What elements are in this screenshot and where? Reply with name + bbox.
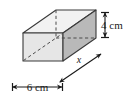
label-height: 4 cm xyxy=(101,19,123,31)
label-width: 6 cm xyxy=(27,81,49,93)
rectangular-prism-svg: 4 cm 6 cm x xyxy=(0,0,130,97)
label-length: x xyxy=(76,54,82,65)
geometry-figure-container: 4 cm 6 cm x xyxy=(0,0,130,97)
dimension-height: 4 cm xyxy=(101,13,123,38)
dimension-width: 6 cm xyxy=(13,81,63,93)
